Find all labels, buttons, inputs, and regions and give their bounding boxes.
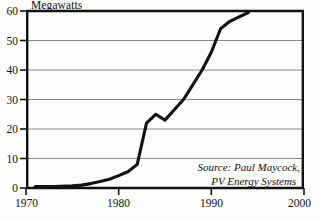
source-line-1: Source: Paul Maycock,	[197, 161, 300, 173]
source-line-2: PV Energy Systems	[197, 175, 300, 188]
chart-axis-title: Megawatts	[31, 0, 82, 11]
ytick-label-30: 30	[0, 94, 18, 106]
xtick-label-1970: 1970	[15, 197, 38, 209]
xtick-label-1980: 1980	[107, 197, 130, 209]
y-axis-ticks	[20, 11, 27, 188]
ytick-label-10: 10	[0, 153, 18, 165]
gridlines	[26, 41, 304, 159]
ytick-label-20: 20	[0, 123, 18, 135]
ytick-label-0: 0	[0, 182, 18, 194]
source-annotation: Source: Paul Maycock, PV Energy Systems	[197, 161, 300, 188]
ytick-label-50: 50	[0, 35, 18, 47]
ytick-label-40: 40	[0, 64, 18, 76]
ytick-label-60: 60	[0, 5, 18, 17]
xtick-label-2000: 2000	[288, 197, 311, 209]
xtick-label-1990: 1990	[200, 197, 223, 209]
chart-container: Megawatts 60 50 40 30 20 10 0 1970 1980 …	[0, 0, 321, 220]
